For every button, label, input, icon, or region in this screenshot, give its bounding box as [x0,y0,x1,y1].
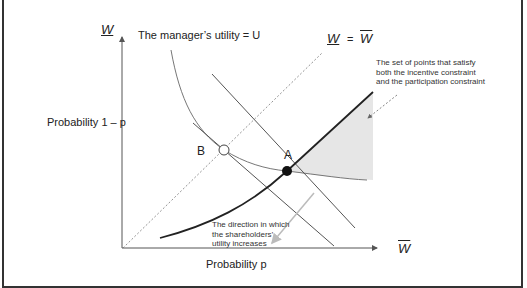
feasible-set-line-3: and the participation constraint [376,77,485,87]
line-eq-left: W [327,31,339,46]
point-b-marker [219,145,229,155]
point-a-label: A [284,148,292,162]
point-b-label: B [197,144,205,158]
line-eq-right: W [360,31,372,46]
feasible-set-line-1: The set of points that satisfy [376,58,485,68]
y-axis-label: Probability 1 – p [47,116,126,128]
point-a-marker [282,166,292,176]
x-axis-symbol: W [398,241,410,256]
direction-line-3: utility increases [212,239,289,249]
feasible-region [287,92,373,180]
direction-line-2: the shareholders’ [212,230,289,240]
y-axis-symbol: W [101,22,113,37]
direction-line-1: The direction in which [212,220,289,230]
manager-utility-label: The manager’s utility = U [138,29,260,41]
x-axis-label: Probability p [206,258,267,270]
direction-annotation: The direction in which the shareholders’… [212,220,289,249]
feasible-set-annotation: The set of points that satisfy both the … [376,58,485,87]
line-eq-equals: = [347,33,353,45]
feasible-set-line-2: both the incentive constraint [376,68,485,78]
